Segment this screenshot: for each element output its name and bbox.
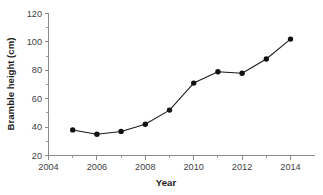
x-tick-label: 2014 — [280, 162, 300, 172]
x-tick-label: 2004 — [38, 162, 58, 172]
data-point — [264, 56, 269, 61]
y-tick-label: 100 — [27, 37, 42, 47]
x-tick-label: 2008 — [135, 162, 155, 172]
y-axis-title: Bramble height (cm) — [5, 38, 16, 131]
data-point — [143, 122, 148, 127]
x-tick-label: 2012 — [232, 162, 252, 172]
y-tick-label: 80 — [32, 65, 42, 75]
y-tick-label: 20 — [32, 151, 42, 161]
x-axis-title: Year — [156, 177, 177, 188]
y-tick-label: 120 — [27, 9, 42, 19]
y-tick-label: 60 — [32, 94, 42, 104]
data-point — [94, 132, 99, 137]
y-tick-label: 40 — [32, 122, 42, 132]
data-point — [167, 107, 172, 112]
x-tick-label: 2010 — [183, 162, 203, 172]
data-point — [288, 36, 293, 41]
data-point — [239, 71, 244, 76]
data-point — [70, 127, 75, 132]
data-point — [191, 80, 196, 85]
data-point — [215, 69, 220, 74]
line-chart: 20 40 60 80 100 120 2004 2006 — [0, 0, 323, 195]
data-point — [118, 129, 123, 134]
chart-figure: 20 40 60 80 100 120 2004 2006 — [0, 0, 323, 195]
figure-bottom-edge — [0, 192, 323, 195]
x-tick-label: 2006 — [87, 162, 107, 172]
